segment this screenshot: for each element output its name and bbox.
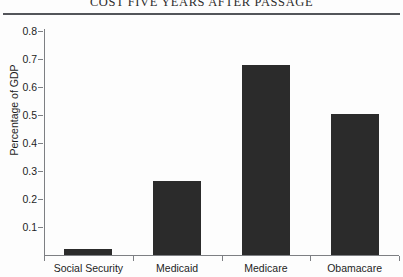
chart-title-band: COST FIVE YEARS AFTER PASSAGE (0, 0, 403, 12)
y-axis-tick-label: 0.3 (3, 165, 37, 177)
bar-obamacare (331, 114, 379, 255)
bar-medicare (242, 65, 290, 255)
y-axis-tick-label: 0.8 (3, 25, 37, 37)
y-axis-tick-label: 0.7 (3, 53, 37, 65)
x-axis-tick (222, 256, 223, 261)
y-axis-tick (38, 59, 43, 60)
chart-title: COST FIVE YEARS AFTER PASSAGE (0, 0, 403, 10)
x-axis-tick (133, 256, 134, 261)
y-axis-tick-label: 0.6 (3, 81, 37, 93)
plot-area (44, 31, 398, 255)
y-axis-tick-label: 0.2 (3, 193, 37, 205)
bar-social-security (64, 249, 112, 255)
y-axis-tick (38, 31, 43, 32)
y-axis-tick (38, 115, 43, 116)
y-axis-tick (38, 227, 43, 228)
y-axis-tick (38, 87, 43, 88)
y-axis-tick-label: 0.5 (3, 109, 37, 121)
y-axis-tick (38, 199, 43, 200)
bar-medicaid (153, 181, 201, 255)
y-axis-tick-label: 0.1 (3, 221, 37, 233)
title-divider (3, 13, 400, 15)
x-axis-label-obamacare: Obamacare (300, 262, 403, 274)
y-axis-tick-label: 0.4 (3, 137, 37, 149)
x-axis-tick (310, 256, 311, 261)
x-axis-tick (399, 256, 400, 261)
y-axis-tick-labels: 0.80.70.60.50.40.30.20.1 (0, 0, 37, 277)
y-axis-tick (38, 171, 43, 172)
x-axis-tick (44, 256, 45, 261)
y-axis-tick (38, 143, 43, 144)
